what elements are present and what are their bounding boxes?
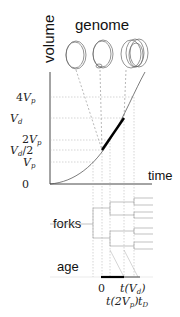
cell-cycle-diagram: volume genome [0, 0, 180, 317]
replication-segment [102, 118, 124, 150]
svg-text:Vd: Vd [10, 112, 23, 126]
volume-gridlines [50, 97, 134, 162]
genome-circle-1 [66, 41, 86, 69]
forks-label: forks [53, 216, 82, 231]
genome-connectors [76, 70, 126, 150]
genome-label: genome [75, 16, 129, 33]
age-tick-t-2vp: t(2Vp) [106, 295, 138, 309]
volume-tick-4vp: 4Vp [16, 91, 36, 105]
growth-curve [50, 72, 145, 184]
svg-text:4Vp: 4Vp [16, 91, 36, 105]
volume-axis-label: volume [40, 15, 57, 63]
svg-text:Vp: Vp [23, 156, 36, 170]
age-tick-t-d: tD [138, 295, 148, 309]
volume-tick-vd: Vd [10, 112, 23, 126]
time-axis-label: time [148, 168, 173, 183]
age-tick-t-vd: t(Vd) [120, 282, 145, 296]
genome-circle-3 [121, 39, 148, 68]
volume-tick-vp: Vp [23, 156, 36, 170]
volume-tick-zero: 0 [22, 178, 29, 191]
genome-circle-2 [93, 40, 113, 68]
age-tick-zero: 0 [98, 282, 105, 295]
age-label: age [57, 259, 79, 274]
time-gridlines [93, 97, 134, 277]
